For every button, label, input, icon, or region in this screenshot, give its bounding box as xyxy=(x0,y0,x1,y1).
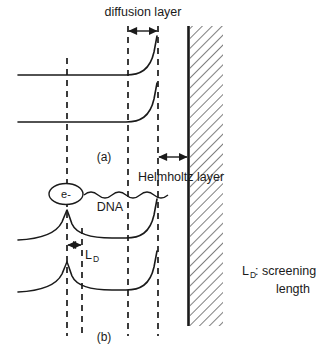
panel-a-upper-curve xyxy=(18,36,157,75)
electron-marker-group: e- xyxy=(49,184,83,205)
panel-b-group xyxy=(18,199,157,292)
dna-strand-group xyxy=(84,192,168,198)
diffusion-layer-label: diffusion layer xyxy=(105,5,182,19)
ld-symbol-label: L xyxy=(85,248,92,262)
panel-b-label: (b) xyxy=(97,330,112,344)
panel-a-label: (a) xyxy=(97,150,112,164)
ld-subscript-label: D xyxy=(93,254,99,264)
dna-wavy-line xyxy=(84,192,168,198)
figure-root: e- diffusion layer Helmholtz layer DNA (… xyxy=(0,0,334,353)
screening-length-legend-group: L D : screening length xyxy=(242,264,316,296)
panel-b-upper-curve xyxy=(18,199,157,240)
legend-screening-text: : screening xyxy=(255,264,316,278)
diagram-canvas: e- diffusion layer Helmholtz layer DNA (… xyxy=(0,0,334,353)
helmholtz-layer-label: Helmholtz layer xyxy=(138,170,224,184)
panel-a-group xyxy=(18,36,157,122)
dna-label: DNA xyxy=(97,200,124,214)
legend-length-text: length xyxy=(276,282,310,296)
legend-ld-symbol: L xyxy=(242,264,249,278)
electron-label: e- xyxy=(61,188,71,200)
panel-a-lower-curve xyxy=(18,83,157,122)
ld-inline-label-group: L D xyxy=(85,248,99,264)
